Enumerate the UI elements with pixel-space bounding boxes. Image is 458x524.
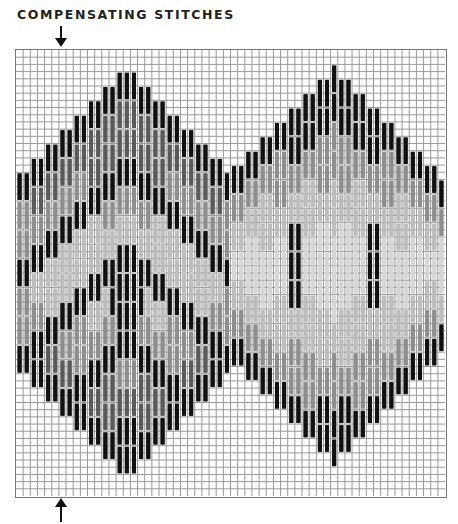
bargello-stitch-chart [16,50,445,496]
stitch-grid [15,49,447,498]
diagram-title: COMPENSATING STITCHES [17,7,235,22]
arrow-down-icon [55,26,67,48]
arrow-up-icon [55,498,67,522]
